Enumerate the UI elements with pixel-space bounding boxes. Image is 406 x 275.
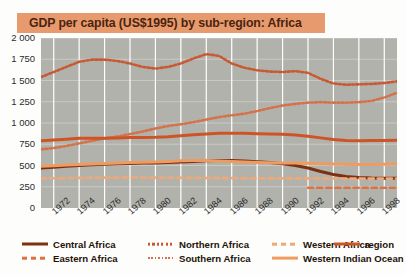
legend-label: Central Africa [53,239,116,250]
chart-legend: Central AfricaEastern AfricaNorthern Afr… [22,238,394,268]
page-title: GDP per capita (US$1995) by sub-region: … [29,15,302,31]
legend-label: Eastern Africa [53,253,118,264]
y-axis-tick-label: 1 000 [11,118,35,128]
y-axis-tick-label: 250 [19,182,35,192]
y-axis-tick-label: 2 000 [11,33,35,43]
legend-swatch-dotted-line-icon [148,239,174,250]
legend-item: region [334,238,394,250]
legend-label: Northern Africa [179,239,249,250]
legend-item: Western Indian Ocean [272,252,404,264]
legend-swatch-dashed-line-icon [22,253,48,264]
chart-figure: GDP per capita (US$1995) by sub-region: … [0,0,406,275]
legend-item: Central Africa [22,238,116,250]
y-axis-tick-label: 500 [19,161,35,171]
legend-label: Southern Africa [179,253,251,264]
legend-item: Southern Africa [148,252,251,264]
series-line [41,178,397,179]
chart-svg [41,38,397,208]
y-axis: 02505007501 0001 2501 5001 7502 000 [0,38,38,208]
y-axis-tick-label: 1 250 [11,97,35,107]
x-axis: 1972197419761978198019821984198619881990… [41,209,397,235]
legend-swatch-dotted-line-icon [148,253,174,264]
legend-swatch-solid-line-icon [334,239,360,250]
legend-label: region [365,239,394,250]
series-line [41,133,397,141]
y-axis-tick-label: 1 750 [11,54,35,64]
legend-swatch-dashed-line-icon [272,239,298,250]
legend-swatch-solid-line-icon [22,239,48,250]
plot-area [41,38,397,208]
legend-item: Northern Africa [148,238,249,250]
y-axis-tick-label: 750 [19,139,35,149]
y-axis-tick-label: 1 500 [11,76,35,86]
legend-swatch-solid-line-icon [272,253,298,264]
legend-item: Eastern Africa [22,252,118,264]
legend-label: Western Indian Ocean [303,253,404,264]
title-banner: GDP per capita (US$1995) by sub-region: … [17,13,325,33]
y-axis-tick-label: 0 [30,203,35,213]
